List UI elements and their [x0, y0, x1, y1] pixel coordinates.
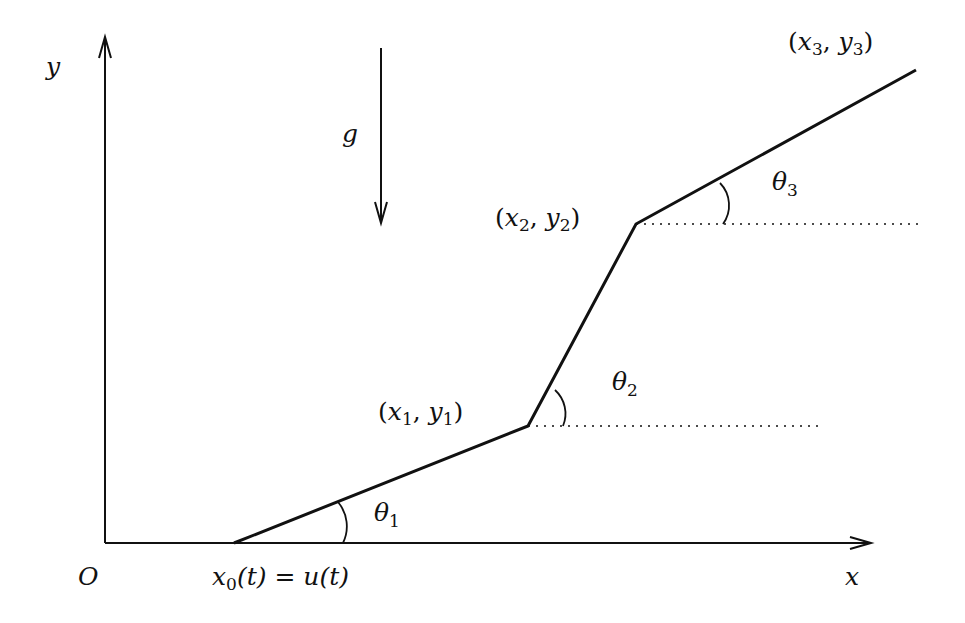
angle-label-3: θ3 — [772, 167, 798, 200]
gravity-label: g — [342, 119, 358, 148]
pendulum-diagram: y x O g θ1 θ2 θ3 (x1, y1) (x2, y2) (x3, … — [0, 0, 965, 623]
origin-label: O — [78, 562, 99, 591]
angle-arc-1 — [338, 502, 347, 543]
pendulum-links — [234, 70, 916, 543]
base-position-label: x0(t) = u(t) — [212, 562, 349, 594]
angle-arc-3 — [720, 183, 729, 224]
point-label-3: (x3, y3) — [788, 27, 873, 59]
x-axis — [105, 537, 871, 549]
point-label-2: (x2, y2) — [495, 203, 580, 235]
angle-arc-2 — [555, 390, 565, 426]
angle-label-1: θ1 — [374, 498, 400, 531]
y-axis — [99, 37, 111, 543]
gravity-arrow-icon — [375, 48, 387, 223]
angle-label-2: θ2 — [612, 367, 638, 400]
y-axis-label: y — [45, 52, 61, 81]
point-label-1: (x1, y1) — [378, 397, 463, 429]
x-axis-label: x — [845, 562, 859, 591]
